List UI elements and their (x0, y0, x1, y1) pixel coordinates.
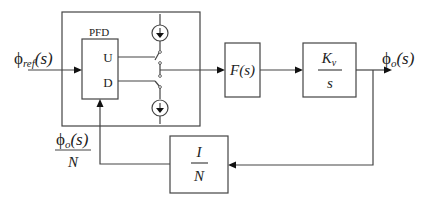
divider-denominator: N (193, 168, 205, 184)
output-signal: ϕo(s) (356, 49, 415, 74)
loop-filter-label: F(s) (229, 62, 255, 79)
vco-denominator: s (327, 75, 333, 91)
vco-block: Kv s (303, 43, 356, 97)
divider-numerator: I (196, 144, 203, 160)
svg-text:N: N (67, 154, 79, 170)
input-label: ϕref(s) (14, 49, 53, 69)
loop-filter-block: F(s) (225, 43, 260, 97)
pfd-down-label: D (103, 75, 112, 90)
pll-block-diagram: PFD U D ϕref(s) (0, 0, 429, 202)
output-label: ϕo(s) (382, 49, 415, 69)
pfd-up-label: U (103, 50, 113, 65)
feedback-signal-label: ϕo(s) N (55, 130, 91, 170)
divider-block: I N (170, 136, 228, 193)
pfd-label: PFD (89, 26, 109, 38)
svg-text:ϕo(s): ϕo(s) (56, 130, 89, 150)
arrow-head-icon (295, 67, 303, 74)
arrow-head-icon (217, 67, 225, 74)
arrow-head-icon (228, 162, 236, 169)
